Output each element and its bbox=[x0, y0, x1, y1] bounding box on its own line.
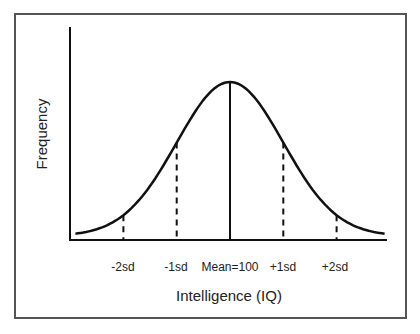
tick-label-mean: Mean=100 bbox=[201, 260, 258, 274]
tick-label-plus-2sd: +2sd bbox=[322, 260, 348, 274]
tick-label-minus-1sd: -1sd bbox=[164, 260, 187, 274]
tick-label-plus-1sd: +1sd bbox=[270, 260, 296, 274]
tick-label-minus-2sd: -2sd bbox=[111, 260, 134, 274]
x-axis-title: Intelligence (IQ) bbox=[176, 287, 282, 304]
y-axis-title: Frequency bbox=[33, 98, 50, 169]
normal-distribution-chart: -2sd -1sd Mean=100 +1sd +2sd Intelligenc… bbox=[0, 0, 420, 334]
sd-markers bbox=[123, 82, 336, 240]
